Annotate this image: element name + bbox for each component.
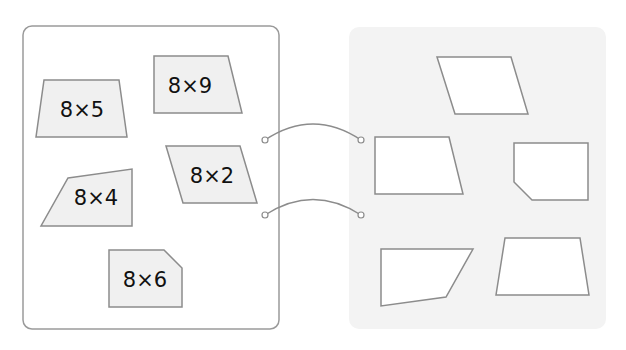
- card-8x5[interactable]: 8×5: [36, 80, 127, 137]
- connector-right-dot[interactable]: [358, 212, 364, 218]
- card-label: 8×6: [123, 268, 167, 292]
- target-right-trapezoid[interactable]: [375, 137, 463, 194]
- card-8x9[interactable]: 8×9: [154, 56, 242, 113]
- connector-left-dot[interactable]: [262, 212, 268, 218]
- target-pentagon[interactable]: [514, 143, 588, 200]
- card-label: 8×9: [168, 74, 212, 98]
- target-trapezoid[interactable]: [496, 238, 589, 295]
- matching-diagram: 8×58×98×28×48×6: [0, 0, 626, 350]
- card-label: 8×4: [74, 186, 118, 210]
- connector-left-dot[interactable]: [262, 137, 268, 143]
- card-label: 8×5: [60, 98, 104, 122]
- connector-right-dot[interactable]: [358, 137, 364, 143]
- card-8x6[interactable]: 8×6: [109, 250, 182, 307]
- card-label: 8×2: [190, 164, 234, 188]
